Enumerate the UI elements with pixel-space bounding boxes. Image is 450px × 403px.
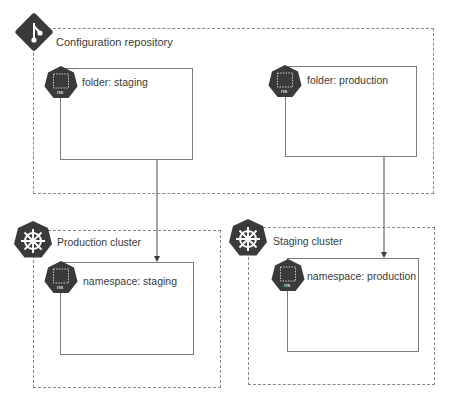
namespace-staging-label: namespace: staging bbox=[83, 275, 177, 287]
namespace-icon: ns bbox=[43, 65, 79, 101]
repository-title: Configuration repository bbox=[56, 36, 173, 48]
namespace-icon-text: ns bbox=[57, 284, 63, 290]
namespace-icon-text: ns bbox=[284, 282, 290, 288]
production-cluster-title: Production cluster bbox=[57, 236, 141, 248]
folder-production-label: folder: production bbox=[307, 74, 388, 86]
namespace-icon: ns bbox=[270, 258, 306, 294]
staging-cluster-title: Staging cluster bbox=[273, 235, 342, 247]
git-icon bbox=[12, 10, 56, 54]
folder-staging-label: folder: staging bbox=[82, 76, 148, 88]
namespace-icon-text: ns bbox=[57, 89, 63, 95]
namespace-production-label: namespace: production bbox=[307, 270, 416, 282]
kubernetes-icon bbox=[13, 220, 53, 260]
namespace-icon-text: ns bbox=[281, 88, 287, 94]
namespace-icon: ns bbox=[43, 260, 79, 296]
namespace-icon: ns bbox=[267, 64, 303, 100]
kubernetes-icon bbox=[228, 218, 268, 258]
